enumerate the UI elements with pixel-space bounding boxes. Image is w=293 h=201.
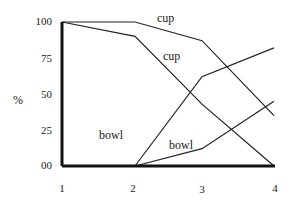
y-tick-100: 100 <box>28 16 52 27</box>
x-tick-2: 2 <box>127 183 139 194</box>
x-tick-3: 3 <box>196 184 208 195</box>
y-tick-0: 00 <box>28 160 52 171</box>
y-tick-50: 50 <box>28 89 52 100</box>
series-label-cup-upper: cup <box>157 13 174 24</box>
series-label-bowl-upper: bowl <box>99 130 123 141</box>
series-label-bowl-lower: bowl <box>169 140 193 151</box>
series-line-cup-upper <box>62 22 274 116</box>
x-tick-4: 4 <box>269 183 281 194</box>
series-line-bowl-lower <box>135 101 274 166</box>
series-line-cup-lower <box>62 22 274 166</box>
y-tick-75: 75 <box>28 53 52 64</box>
series-label-cup-lower: cup <box>163 51 180 62</box>
y-axis-label: % <box>13 95 23 106</box>
x-tick-1: 1 <box>56 183 68 194</box>
y-tick-25: 25 <box>28 125 52 136</box>
